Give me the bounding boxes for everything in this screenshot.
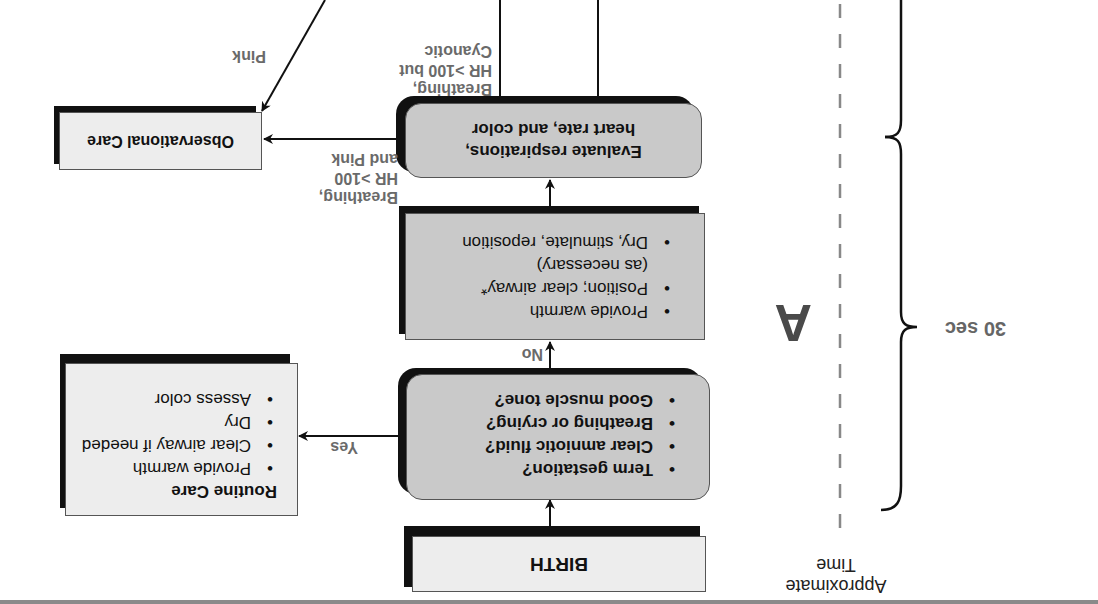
initial-steps-item: Provide warmth [406, 300, 648, 323]
edge-label-yes: Yes [330, 438, 358, 457]
assessment-item: Breathing or crying? [407, 412, 653, 435]
routine-care-item: Clear airway if needed [66, 434, 251, 457]
initial-steps-item: Dry, stimulate, reposition [406, 231, 648, 254]
edge-label-breathing-cyanotic: Breathing, HR >100 but Cyanotic [399, 42, 492, 99]
initial-steps-list: Provide warmth Position; clear airway* (… [406, 231, 678, 323]
initial-steps-item-continued: (as necessary) [406, 254, 648, 277]
assessment-item: Good muscle tone? [407, 389, 653, 412]
routine-care-item: Provide warmth [66, 457, 251, 480]
evaluate-box: Evaluate respirations, heart rate, and c… [405, 103, 702, 178]
routine-care-item: Dry [66, 411, 251, 434]
edge-label-pink: Pink [232, 47, 266, 66]
panel-label-a: A [774, 297, 812, 349]
routine-care-box: Routine Care Provide warmth Clear airway… [65, 363, 298, 516]
initial-steps-item: Position; clear airway* [406, 277, 648, 300]
observational-care-label: Observational Care [87, 132, 234, 150]
assessment-box: Term gestation? Clear amniotic fluid? Br… [406, 374, 710, 500]
edge-label-breathing-pink: Breathing, HR >100 and Pink [319, 150, 398, 207]
observational-care-box: Observational Care [59, 112, 262, 170]
edge-label-no: No [522, 345, 543, 364]
assessment-item: Term gestation? [407, 458, 653, 481]
routine-care-list: Provide warmth Clear airway if needed Dr… [66, 388, 277, 480]
brace-30sec [881, 137, 917, 510]
approximate-time-label: Approximate Time [766, 554, 906, 596]
initial-steps-box: Provide warmth Position; clear airway* (… [405, 213, 705, 340]
interval-label-30sec: 30 sec [945, 317, 1006, 340]
assessment-item: Clear amniotic fluid? [407, 435, 653, 458]
routine-care-item: Assess color [66, 388, 251, 411]
evaluate-line2: heart rate, and color [472, 119, 635, 141]
assessment-list: Term gestation? Clear amniotic fluid? Br… [407, 389, 683, 481]
flowchart-stage: BIRTH Term gestation? Clear amniotic flu… [0, 0, 1098, 604]
evaluate-line1: Evaluate respirations, [465, 141, 642, 163]
birth-label: BIRTH [530, 553, 588, 575]
routine-care-title: Routine Care [66, 480, 277, 503]
birth-box: BIRTH [412, 536, 706, 592]
brace-next [885, 0, 901, 137]
